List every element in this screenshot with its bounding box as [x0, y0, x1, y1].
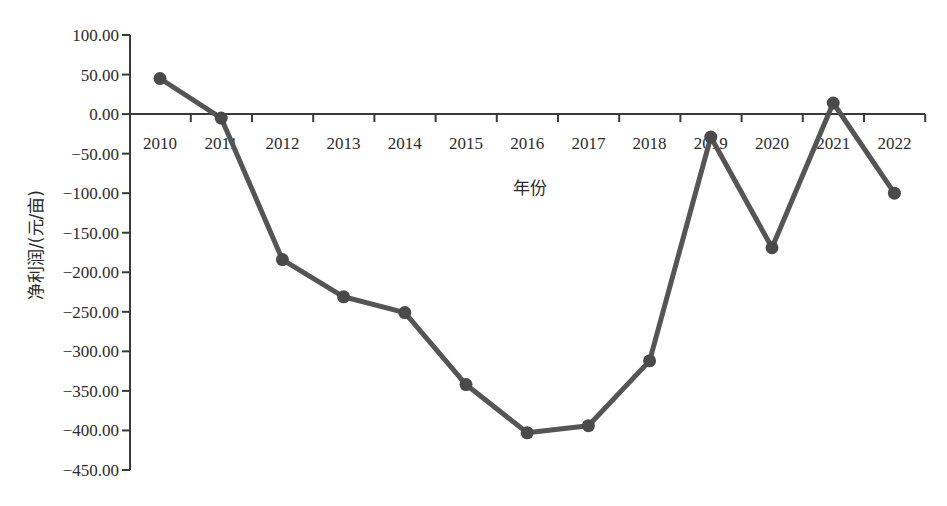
- y-axis: 100.0050.000.00−50.00−100.00−150.00−200.…: [63, 26, 130, 480]
- y-tick-label: −150.00: [63, 224, 119, 243]
- x-tick-label: 2015: [449, 134, 483, 153]
- line-chart: 100.0050.000.00−50.00−100.00−150.00−200.…: [0, 0, 947, 506]
- x-tick-label: 2012: [265, 134, 299, 153]
- data-point-marker: [154, 72, 167, 85]
- data-point-marker: [704, 131, 717, 144]
- y-tick-label: 100.00: [72, 26, 119, 45]
- data-point-marker: [582, 419, 595, 432]
- x-tick-label: 2014: [388, 134, 423, 153]
- series-line: [160, 79, 894, 433]
- x-tick-label: 2022: [877, 134, 911, 153]
- y-tick-label: −50.00: [71, 145, 119, 164]
- data-point-marker: [460, 378, 473, 391]
- y-tick-label: 0.00: [89, 105, 119, 124]
- y-tick-label: −350.00: [63, 382, 119, 401]
- data-point-marker: [337, 290, 350, 303]
- x-axis-title: 年份: [513, 178, 547, 198]
- x-tick-label: 2017: [571, 134, 606, 153]
- data-point-marker: [888, 187, 901, 200]
- data-point-marker: [827, 97, 840, 110]
- x-tick-label: 2013: [327, 134, 361, 153]
- y-tick-label: −450.00: [63, 461, 119, 480]
- y-tick-label: −200.00: [63, 263, 119, 282]
- x-tick-label: 2020: [755, 134, 789, 153]
- data-point-marker: [643, 354, 656, 367]
- data-point-marker: [521, 426, 534, 439]
- data-point-marker: [766, 241, 779, 254]
- data-point-marker: [215, 112, 228, 125]
- y-tick-label: −400.00: [63, 421, 119, 440]
- y-tick-label: −250.00: [63, 303, 119, 322]
- x-tick-label: 2010: [143, 134, 177, 153]
- y-tick-label: 50.00: [81, 66, 119, 85]
- x-tick-label: 2018: [633, 134, 667, 153]
- y-tick-label: −100.00: [63, 184, 119, 203]
- data-point-marker: [398, 306, 411, 319]
- data-series: [154, 72, 901, 439]
- y-tick-label: −300.00: [63, 342, 119, 361]
- x-tick-label: 2016: [510, 134, 544, 153]
- x-axis: 2010201120122013201420152016201720182019…: [130, 114, 925, 153]
- y-axis-title: 净利润/(元/亩): [26, 190, 46, 300]
- data-point-marker: [276, 253, 289, 266]
